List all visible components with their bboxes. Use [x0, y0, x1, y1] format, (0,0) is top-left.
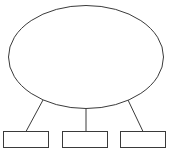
connector-root-to-box-1[interactable]	[26, 100, 43, 132]
root-node-group[interactable]	[9, 6, 164, 109]
child-box-node-3[interactable]	[121, 132, 166, 148]
diagram-svg	[0, 0, 194, 151]
diagram-canvas	[0, 0, 194, 151]
root-ellipse-node[interactable]	[9, 6, 164, 109]
child-node-group	[4, 132, 166, 148]
child-box-node-1[interactable]	[4, 132, 49, 148]
child-box-node-2[interactable]	[63, 132, 108, 148]
connector-root-to-box-3[interactable]	[128, 100, 143, 132]
